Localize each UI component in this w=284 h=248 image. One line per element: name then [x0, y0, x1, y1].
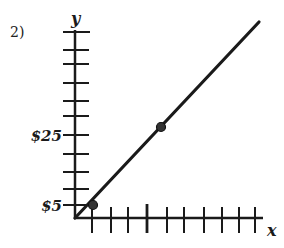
data-point-25 [157, 123, 166, 132]
y-ticks [63, 32, 90, 205]
y-tick-label-25: $25 [31, 127, 62, 145]
y-tick-label-5: $5 [41, 197, 62, 215]
x-axis-label: x [266, 221, 277, 240]
line-graph: y x $25 $5 [0, 0, 284, 248]
y-axis-label: y [70, 9, 82, 28]
data-point-5 [89, 201, 98, 210]
data-line [75, 22, 259, 218]
